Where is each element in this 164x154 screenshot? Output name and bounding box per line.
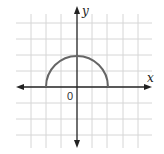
arrow-left-icon	[16, 84, 24, 90]
x-axis	[16, 84, 152, 90]
coordinate-plane: y x 0	[0, 0, 164, 154]
x-axis-label: x	[147, 71, 154, 85]
y-axis	[74, 6, 80, 148]
arrow-down-icon	[74, 140, 80, 148]
y-axis-label: y	[81, 4, 89, 18]
origin-label: 0	[67, 90, 73, 102]
grid	[16, 14, 152, 148]
arrow-up-icon	[74, 6, 80, 14]
